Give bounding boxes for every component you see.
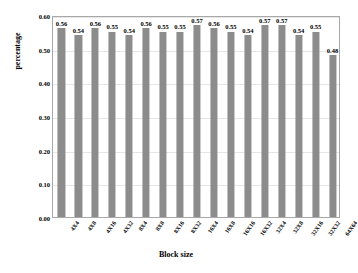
- bar-value-label: 0.54: [73, 27, 84, 34]
- y-axis-tick: 0.30: [22, 114, 50, 121]
- y-axis-tick: 0.10: [22, 181, 50, 188]
- bar-value-label: 0.54: [242, 27, 253, 34]
- bar-value-label: 0.57: [276, 17, 287, 24]
- bar-value-label: 0.56: [90, 20, 101, 27]
- x-axis-tick: 16X16: [242, 220, 256, 237]
- bar-slot: 0.57: [273, 17, 290, 217]
- x-axis-tick: 8X8: [155, 220, 166, 232]
- bars-layer: 0.560.540.560.550.540.560.550.550.570.56…: [53, 17, 339, 217]
- bar: [227, 32, 234, 217]
- bar-value-label: 0.54: [293, 27, 304, 34]
- bar-slot: 0.55: [222, 17, 239, 217]
- bar-value-label: 0.56: [208, 20, 219, 27]
- y-axis-title: percentage: [13, 6, 22, 96]
- bar-value-label: 0.56: [56, 20, 67, 27]
- y-axis-tick: 0.50: [22, 46, 50, 53]
- plot-area: 0.560.540.560.550.540.560.550.550.570.56…: [52, 16, 340, 218]
- bar: [244, 35, 251, 217]
- bar-slot: 0.48: [324, 17, 341, 217]
- x-axis-tick: 64X64: [343, 220, 357, 237]
- bar-slot: 0.54: [121, 17, 138, 217]
- x-axis-tick: 8X32: [190, 220, 203, 234]
- bar-slot: 0.56: [138, 17, 155, 217]
- x-axis-tick: 32X32: [327, 220, 341, 237]
- bar: [176, 32, 183, 217]
- bar: [193, 25, 200, 217]
- bar-slot: 0.56: [53, 17, 70, 217]
- x-axis-tick: 32X8: [291, 220, 304, 234]
- bar: [210, 28, 217, 217]
- bar-value-label: 0.55: [107, 23, 118, 30]
- bar-value-label: 0.57: [259, 17, 270, 24]
- y-axis-tick: 0.40: [22, 80, 50, 87]
- x-axis-tick-labels: 4X44X84X164X328X48X88X168X3216X416X816X1…: [52, 218, 340, 248]
- bar-slot: 0.54: [239, 17, 256, 217]
- x-axis-tick: 4X8: [87, 220, 98, 232]
- bar: [109, 32, 116, 217]
- bar: [143, 28, 150, 217]
- bar-value-label: 0.57: [191, 17, 202, 24]
- bar-slot: 0.54: [290, 17, 307, 217]
- bar-slot: 0.54: [70, 17, 87, 217]
- bar-value-label: 0.55: [225, 23, 236, 30]
- x-axis-tick: 4X16: [105, 220, 118, 234]
- y-axis-tick: 0.20: [22, 147, 50, 154]
- x-axis-tick: 16X4: [207, 220, 220, 234]
- bar-value-label: 0.55: [174, 23, 185, 30]
- bar: [58, 28, 65, 217]
- bar-slot: 0.55: [307, 17, 324, 217]
- x-axis-tick: 32X4: [274, 220, 287, 234]
- bar-value-label: 0.55: [157, 23, 168, 30]
- x-axis-title: Block size: [0, 250, 352, 259]
- bar-slot: 0.56: [87, 17, 104, 217]
- y-axis-tick: 0.60: [22, 13, 50, 20]
- x-axis-tick: 16X8: [224, 220, 237, 234]
- bar: [126, 35, 133, 217]
- bar-slot: 0.57: [189, 17, 206, 217]
- bar-value-label: 0.56: [140, 20, 151, 27]
- x-axis-tick: 32X16: [310, 220, 324, 237]
- y-axis-tick: 0.00: [22, 215, 50, 222]
- bar: [278, 25, 285, 217]
- bar: [295, 35, 302, 217]
- bar: [92, 28, 99, 217]
- bar: [160, 32, 167, 217]
- x-axis-tick: 4X4: [70, 220, 81, 232]
- bar: [329, 55, 336, 217]
- x-axis-tick: 16X32: [259, 220, 273, 237]
- bar-slot: 0.56: [205, 17, 222, 217]
- bar-value-label: 0.55: [310, 23, 321, 30]
- x-axis-tick: 8X4: [138, 220, 149, 232]
- bar-value-label: 0.48: [327, 47, 338, 54]
- bar: [261, 25, 268, 217]
- y-axis-tick-labels: 0.000.100.200.300.400.500.60: [22, 16, 50, 218]
- bar: [75, 35, 82, 217]
- bar: [312, 32, 319, 217]
- bar-slot: 0.55: [155, 17, 172, 217]
- bar-slot: 0.57: [256, 17, 273, 217]
- bar-value-label: 0.54: [124, 27, 135, 34]
- x-axis-tick: 4X32: [122, 220, 135, 234]
- bar-slot: 0.55: [104, 17, 121, 217]
- bar-slot: 0.55: [172, 17, 189, 217]
- x-axis-tick: 8X16: [173, 220, 186, 234]
